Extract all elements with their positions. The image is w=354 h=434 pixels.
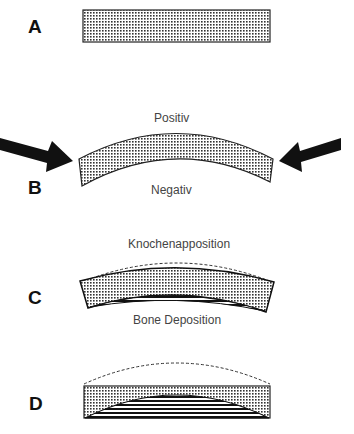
bent-bar-b	[79, 134, 273, 187]
caption-bone-deposition: Bone Deposition	[133, 313, 221, 327]
panel-label-a: A	[28, 16, 42, 38]
caption-negativ: Negativ	[151, 183, 192, 197]
caption-knochenapposition: Knochenapposition	[128, 237, 230, 251]
caption-positiv: Positiv	[154, 111, 189, 125]
right-arrow-icon	[279, 138, 341, 172]
straight-bar-a	[83, 10, 270, 42]
diagram-canvas	[0, 0, 354, 434]
panel-label-b: B	[28, 177, 42, 199]
panel-label-d: D	[29, 393, 43, 415]
panel-label-c: C	[28, 287, 42, 309]
left-arrow-icon	[0, 138, 73, 172]
original-outline-d	[84, 363, 270, 384]
